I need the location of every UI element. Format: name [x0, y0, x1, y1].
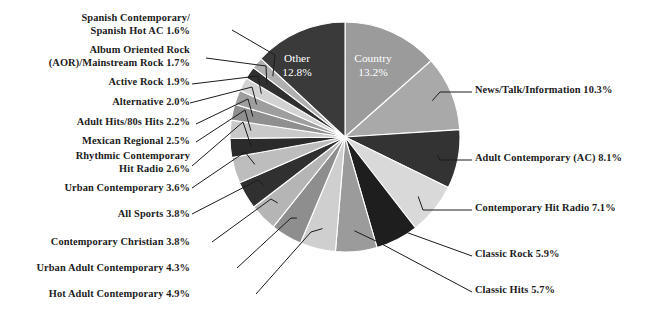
- callout-classic-rock: Classic Rock 5.9%: [475, 248, 657, 261]
- callout-adult-hits-80s-hits: Adult Hits/80s Hits 2.2%: [0, 116, 190, 129]
- callout-classic-hits: Classic Hits 5.7%: [475, 284, 657, 297]
- callout-all-sports: All Sports 3.8%: [0, 208, 190, 221]
- callout-hot-adult-contemporary: Hot Adult Contemporary 4.9%: [0, 288, 190, 301]
- pie-chart-figure: Other12.8%Country13.2% Spanish Contempor…: [0, 0, 657, 312]
- callout-album-oriented-rock: Album Oriented Rock (AOR)/Mainstream Roc…: [0, 44, 190, 69]
- callout-adult-contemporary: Adult Contemporary (AC) 8.1%: [475, 152, 657, 165]
- callout-active-rock: Active Rock 1.9%: [0, 76, 190, 89]
- callout-spanish-contemporary: Spanish Contemporary/ Spanish Hot AC 1.6…: [0, 12, 190, 37]
- callout-contemporary-christian: Contemporary Christian 3.8%: [0, 236, 190, 249]
- callout-news-talk-information: News/Talk/Information 10.3%: [475, 84, 657, 97]
- pie-slices-group: [230, 22, 460, 252]
- callout-contemporary-hit-radio: Contemporary Hit Radio 7.1%: [475, 202, 657, 215]
- callout-mexican-regional: Mexican Regional 2.5%: [0, 135, 190, 148]
- callout-rhythmic-contemporary-hit-radio: Rhythmic Contemporary Hit Radio 2.6%: [0, 150, 190, 175]
- callout-alternative: Alternative 2.0%: [0, 96, 190, 109]
- callout-urban-contemporary: Urban Contemporary 3.6%: [0, 182, 190, 195]
- callout-urban-adult-contemporary: Urban Adult Contemporary 4.3%: [0, 262, 190, 275]
